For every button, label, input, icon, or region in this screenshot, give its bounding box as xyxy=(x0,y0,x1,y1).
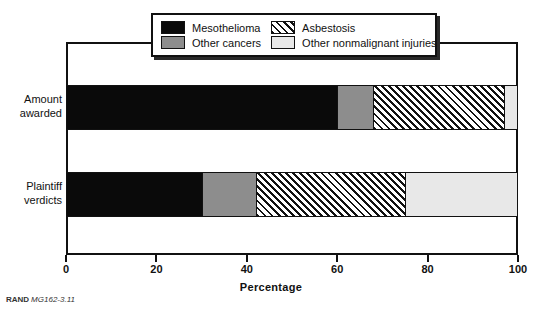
x-axis-tick xyxy=(427,255,429,262)
category-label-line2: awarded xyxy=(0,106,62,120)
x-axis-tick xyxy=(246,255,248,262)
legend-label: Mesothelioma xyxy=(192,22,260,34)
bar-segment-other-nonmalignant-injuries xyxy=(405,173,518,216)
legend-item-other-nonmalignant-injuries: Other nonmalignant injuries xyxy=(271,36,437,49)
legend-label: Asbestosis xyxy=(302,22,355,34)
x-axis-tick-label: 100 xyxy=(509,263,527,275)
category-label-line1: Amount xyxy=(0,92,62,106)
x-axis-tick xyxy=(336,255,338,262)
bar-segment-mesothelioma xyxy=(67,173,202,216)
legend-item-mesothelioma: Mesothelioma xyxy=(161,21,261,34)
category-label-plaintiff-verdicts: Plaintiff verdicts xyxy=(0,179,62,207)
source-note: RANDMG162-3.11 xyxy=(6,295,75,304)
x-axis-title: Percentage xyxy=(0,281,542,293)
x-axis-tick-label: 80 xyxy=(421,263,433,275)
x-axis-tick-label: 0 xyxy=(63,263,69,275)
bar-plaintiff-verdicts xyxy=(66,172,518,217)
bar-segment-other-nonmalignant-injuries xyxy=(504,86,518,129)
category-label-line2: verdicts xyxy=(0,193,62,207)
bar-segment-other-cancers xyxy=(337,86,373,129)
bar-segment-asbestosis xyxy=(373,86,504,129)
category-label-amount-awarded: Amount awarded xyxy=(0,92,62,120)
plot-area xyxy=(66,42,518,255)
bar-segment-mesothelioma xyxy=(67,86,337,129)
stacked-bar-chart: Amount awarded Plaintiff verdicts 020406… xyxy=(0,0,542,315)
category-label-line1: Plaintiff xyxy=(0,179,62,193)
legend-swatch-other-nonmalignant-injuries-icon xyxy=(271,36,295,49)
bar-segment-other-cancers xyxy=(202,173,256,216)
legend-swatch-mesothelioma-icon xyxy=(161,21,185,34)
bar-segment-asbestosis xyxy=(256,173,405,216)
x-axis-tick-label: 40 xyxy=(241,263,253,275)
x-axis-tick xyxy=(155,255,157,262)
legend-item-other-cancers: Other cancers xyxy=(161,36,261,49)
chart-legend: Mesothelioma Asbestosis Other cancers Ot… xyxy=(151,13,437,57)
legend-item-asbestosis: Asbestosis xyxy=(271,21,437,34)
legend-label: Other nonmalignant injuries xyxy=(302,37,437,49)
x-axis-tick xyxy=(517,255,519,262)
legend-swatch-other-cancers-icon xyxy=(161,36,185,49)
source-note-code: MG162-3.11 xyxy=(31,295,75,304)
source-note-brand: RAND xyxy=(6,295,29,304)
legend-swatch-asbestosis-icon xyxy=(271,21,295,34)
x-axis-tick-label: 60 xyxy=(331,263,343,275)
legend-label: Other cancers xyxy=(192,37,261,49)
x-axis-tick-label: 20 xyxy=(150,263,162,275)
bar-amount-awarded xyxy=(66,85,518,130)
x-axis-tick xyxy=(65,255,67,262)
